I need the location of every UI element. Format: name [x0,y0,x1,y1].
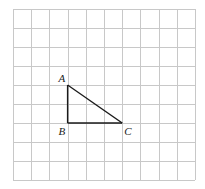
vertex-label-b: B [59,125,66,137]
square-grid [13,9,196,181]
vertex-label-c: C [124,125,132,137]
vertex-label-a: A [58,72,66,84]
grid-diagram: A B C [0,0,205,189]
